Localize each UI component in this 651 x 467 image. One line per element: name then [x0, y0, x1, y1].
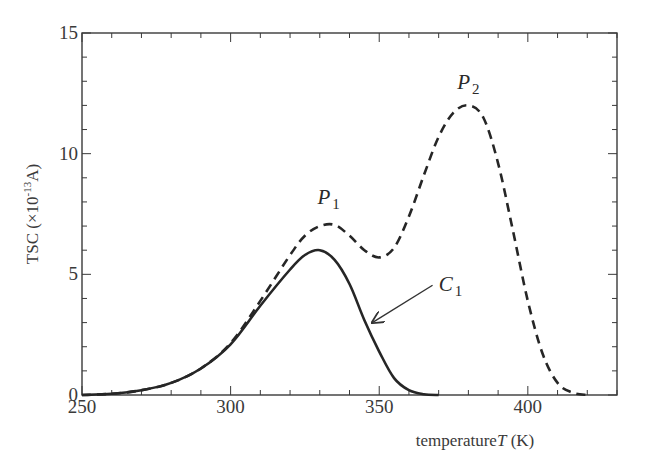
y-axis-label: TSC (×10-13A) [21, 164, 42, 264]
dashed-total-curve [82, 105, 587, 395]
x-tick-label: 300 [216, 396, 245, 417]
x-tick-label: 400 [514, 396, 543, 417]
annotation-p1: P1 [317, 185, 340, 212]
y-tick-label: 10 [59, 143, 78, 164]
y-tick-label: 5 [69, 263, 79, 284]
series-layer [82, 105, 587, 395]
annotation-p2: P2 [456, 70, 479, 97]
tsc-chart: 250300350400051015 P1P2C1 TSC (×10-13A) … [0, 0, 651, 467]
plot-frame [82, 33, 617, 395]
axis-ticks [82, 33, 617, 395]
c1-arrow [372, 285, 432, 322]
y-tick-label: 0 [69, 384, 79, 405]
plot-border [82, 33, 617, 395]
x-tick-label: 350 [365, 396, 394, 417]
x-axis-label: temperatureT (K) [416, 431, 535, 450]
y-tick-label: 15 [59, 22, 78, 43]
solid-c1-curve [82, 250, 439, 395]
annotation-c1: C1 [439, 272, 463, 299]
annotations: P1P2C1 [317, 70, 480, 323]
